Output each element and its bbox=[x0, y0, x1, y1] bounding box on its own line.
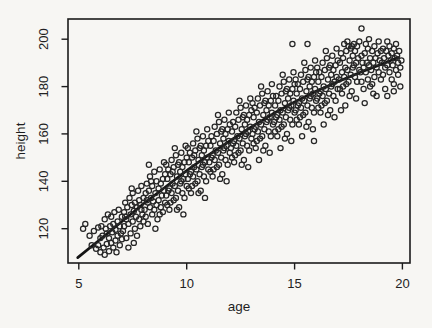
data-point bbox=[102, 217, 107, 222]
data-point bbox=[268, 134, 273, 139]
data-point bbox=[145, 221, 150, 226]
data-point bbox=[172, 146, 177, 151]
data-point bbox=[366, 37, 371, 42]
data-point bbox=[341, 56, 346, 61]
data-point bbox=[220, 172, 225, 177]
x-axis bbox=[79, 263, 403, 270]
data-point bbox=[311, 110, 316, 115]
data-point bbox=[96, 225, 101, 230]
data-point bbox=[205, 127, 210, 132]
data-point bbox=[182, 195, 187, 200]
data-point bbox=[179, 150, 184, 155]
data-point bbox=[218, 141, 223, 146]
x-tick-labels: 5 10 15 20 bbox=[75, 276, 409, 291]
x-tick-label: 20 bbox=[395, 276, 409, 291]
data-point bbox=[290, 122, 295, 127]
data-point bbox=[132, 226, 137, 231]
data-point bbox=[254, 110, 259, 115]
x-tick-label: 15 bbox=[287, 276, 301, 291]
data-point bbox=[263, 143, 268, 148]
data-point bbox=[294, 91, 299, 96]
data-point bbox=[306, 119, 311, 124]
data-point bbox=[287, 77, 292, 82]
data-point bbox=[354, 96, 359, 101]
data-point bbox=[246, 165, 251, 170]
data-point bbox=[278, 146, 283, 151]
data-point bbox=[222, 117, 227, 122]
data-point bbox=[324, 56, 329, 61]
scatter-points bbox=[81, 26, 405, 257]
y-tick-label: 160 bbox=[36, 123, 51, 145]
data-point bbox=[126, 245, 131, 250]
data-point bbox=[334, 46, 339, 51]
data-point bbox=[319, 74, 324, 79]
data-point bbox=[361, 86, 366, 91]
data-point bbox=[333, 98, 338, 103]
data-point bbox=[239, 127, 244, 132]
data-point bbox=[116, 207, 121, 212]
data-point bbox=[216, 119, 221, 124]
data-point bbox=[256, 157, 261, 162]
data-point bbox=[225, 162, 230, 167]
data-point bbox=[146, 162, 151, 167]
data-point bbox=[372, 44, 377, 49]
data-point bbox=[131, 240, 136, 245]
data-point bbox=[224, 179, 229, 184]
data-point bbox=[304, 89, 309, 94]
data-point bbox=[260, 91, 265, 96]
data-point bbox=[130, 219, 135, 224]
y-tick-label: 200 bbox=[36, 28, 51, 50]
y-tick-label: 120 bbox=[36, 218, 51, 240]
data-point bbox=[320, 60, 325, 65]
data-point bbox=[397, 48, 402, 53]
data-point bbox=[339, 91, 344, 96]
data-point bbox=[277, 84, 282, 89]
data-point bbox=[243, 103, 248, 108]
data-point bbox=[191, 141, 196, 146]
data-point bbox=[202, 195, 207, 200]
data-point bbox=[396, 72, 401, 77]
data-point bbox=[247, 148, 252, 153]
data-point bbox=[385, 93, 390, 98]
data-point bbox=[241, 157, 246, 162]
data-point bbox=[200, 134, 205, 139]
data-point bbox=[347, 58, 352, 63]
data-point bbox=[291, 70, 296, 75]
data-point bbox=[290, 41, 295, 46]
data-point bbox=[232, 160, 237, 165]
data-point bbox=[238, 105, 243, 110]
data-point bbox=[215, 112, 220, 117]
data-point bbox=[313, 58, 318, 63]
x-axis-label: age bbox=[228, 299, 251, 314]
y-tick-label: 180 bbox=[36, 76, 51, 98]
data-point bbox=[376, 39, 381, 44]
data-point bbox=[372, 74, 377, 79]
data-point bbox=[134, 233, 139, 238]
data-point bbox=[343, 103, 348, 108]
data-point bbox=[398, 84, 403, 89]
data-point bbox=[308, 65, 313, 70]
y-axis bbox=[62, 39, 69, 229]
data-point bbox=[117, 243, 122, 248]
data-point bbox=[349, 89, 354, 94]
data-point bbox=[152, 169, 157, 174]
y-axis-label: height bbox=[13, 122, 28, 159]
data-point bbox=[173, 153, 178, 158]
data-point bbox=[362, 101, 367, 106]
data-point bbox=[237, 98, 242, 103]
data-point bbox=[305, 41, 310, 46]
data-point bbox=[157, 167, 162, 172]
data-point bbox=[265, 89, 270, 94]
data-point bbox=[318, 110, 323, 115]
data-point bbox=[276, 98, 281, 103]
data-point bbox=[127, 195, 132, 200]
y-tick-labels: 120 140 160 180 200 bbox=[36, 28, 51, 239]
data-point bbox=[267, 150, 272, 155]
data-point bbox=[359, 26, 364, 31]
data-point bbox=[204, 179, 209, 184]
data-point bbox=[253, 146, 258, 151]
data-point bbox=[338, 108, 343, 113]
data-point bbox=[316, 79, 321, 84]
data-point bbox=[156, 198, 161, 203]
data-point bbox=[210, 174, 215, 179]
